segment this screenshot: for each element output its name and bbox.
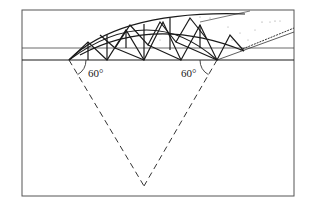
- truss-arch-diagram: 60° 60°: [0, 0, 311, 205]
- left-angle-label: 60°: [88, 67, 103, 79]
- right-angle-arc: [200, 60, 209, 75]
- right-slant-line: [240, 28, 294, 50]
- left-angle-arc: [78, 60, 87, 75]
- right-angle-label: 60°: [181, 67, 196, 79]
- outer-arch-chord: [69, 14, 245, 60]
- lower-right-slant: [217, 32, 294, 60]
- truss: [69, 14, 245, 60]
- stipple-region: [125, 17, 281, 41]
- upper-slant-line: [200, 11, 250, 22]
- left-dashed-line: [69, 60, 144, 186]
- frame-border: [22, 10, 294, 196]
